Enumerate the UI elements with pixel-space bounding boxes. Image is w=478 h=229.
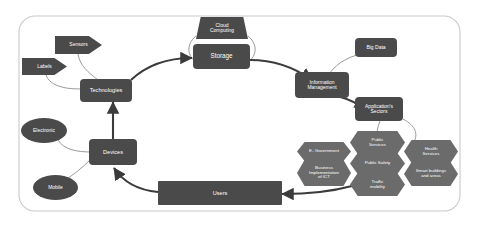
node-labels-label: Labels: [37, 64, 52, 69]
node-cloud-computing-label-line2: Computing: [210, 28, 234, 33]
node-applications-sectors[interactable]: Application's Sectors: [355, 97, 403, 121]
node-devices[interactable]: Devices: [89, 139, 137, 165]
node-big-data[interactable]: Big Data: [355, 38, 397, 57]
hexagon-business-ict-label-line3: of ICT: [318, 175, 330, 180]
hexagon-traffic-mobility[interactable]: Traffic mobility: [350, 173, 405, 196]
node-technologies-label: Technologies: [90, 87, 123, 93]
hexagon-health-services[interactable]: Health Services: [404, 140, 458, 163]
node-big-data-label: Big Data: [366, 45, 385, 50]
edge-applications-sectors-to-hexcluster: [403, 119, 416, 142]
node-storage[interactable]: Storage: [193, 44, 250, 69]
node-information-management-label-line2: Management: [307, 85, 336, 90]
hexagon-business-implementation-ict[interactable]: Business Implementation of ICT: [297, 160, 351, 186]
node-users[interactable]: Users: [158, 181, 282, 205]
node-cloud-computing[interactable]: Cloud Computing: [196, 17, 248, 39]
edge-users-to-devices: [114, 168, 158, 192]
hexagon-public-safety[interactable]: Public Safety: [350, 153, 405, 174]
hexagon-smart-buildings-label-line2: and areas: [421, 174, 441, 179]
node-mobile-label: Mobile: [48, 185, 63, 190]
hexagon-e-government-label: E- Government: [309, 149, 339, 154]
hexagon-traffic-mobility-label-line2: mobility: [370, 185, 385, 190]
node-devices-label: Devices: [103, 149, 123, 155]
hexagon-public-services[interactable]: Public Services: [350, 131, 405, 154]
node-applications-sectors-label-line2: Sectors: [371, 109, 388, 114]
diagram-canvas: Sensors Labels Technologies Cloud Comput…: [0, 0, 478, 229]
node-storage-label: Storage: [210, 53, 232, 60]
node-electronic[interactable]: Electronic: [21, 118, 67, 143]
hexagon-smart-buildings-and-areas[interactable]: Smart buildings and areas: [404, 162, 458, 186]
node-electronic-label: Electronic: [33, 128, 55, 133]
node-mobile[interactable]: Mobile: [33, 175, 78, 200]
edge-electronic-devices: [58, 140, 92, 152]
node-technologies[interactable]: Technologies: [80, 79, 132, 102]
hexagon-e-government[interactable]: E- Government: [297, 142, 351, 161]
edge-hexcluster-to-users: [282, 186, 352, 194]
hexagon-public-services-label-line2: Services: [369, 143, 386, 148]
edge-sensors-technologies: [78, 54, 98, 80]
node-users-label: Users: [213, 190, 228, 196]
node-sensors-label: Sensors: [69, 42, 87, 47]
hexagon-health-services-label-line2: Services: [423, 152, 440, 157]
edge-technologies-to-storage: [131, 58, 192, 80]
node-information-management[interactable]: Information Management: [295, 72, 349, 98]
hexagon-public-safety-label: Public Safety: [365, 161, 391, 166]
